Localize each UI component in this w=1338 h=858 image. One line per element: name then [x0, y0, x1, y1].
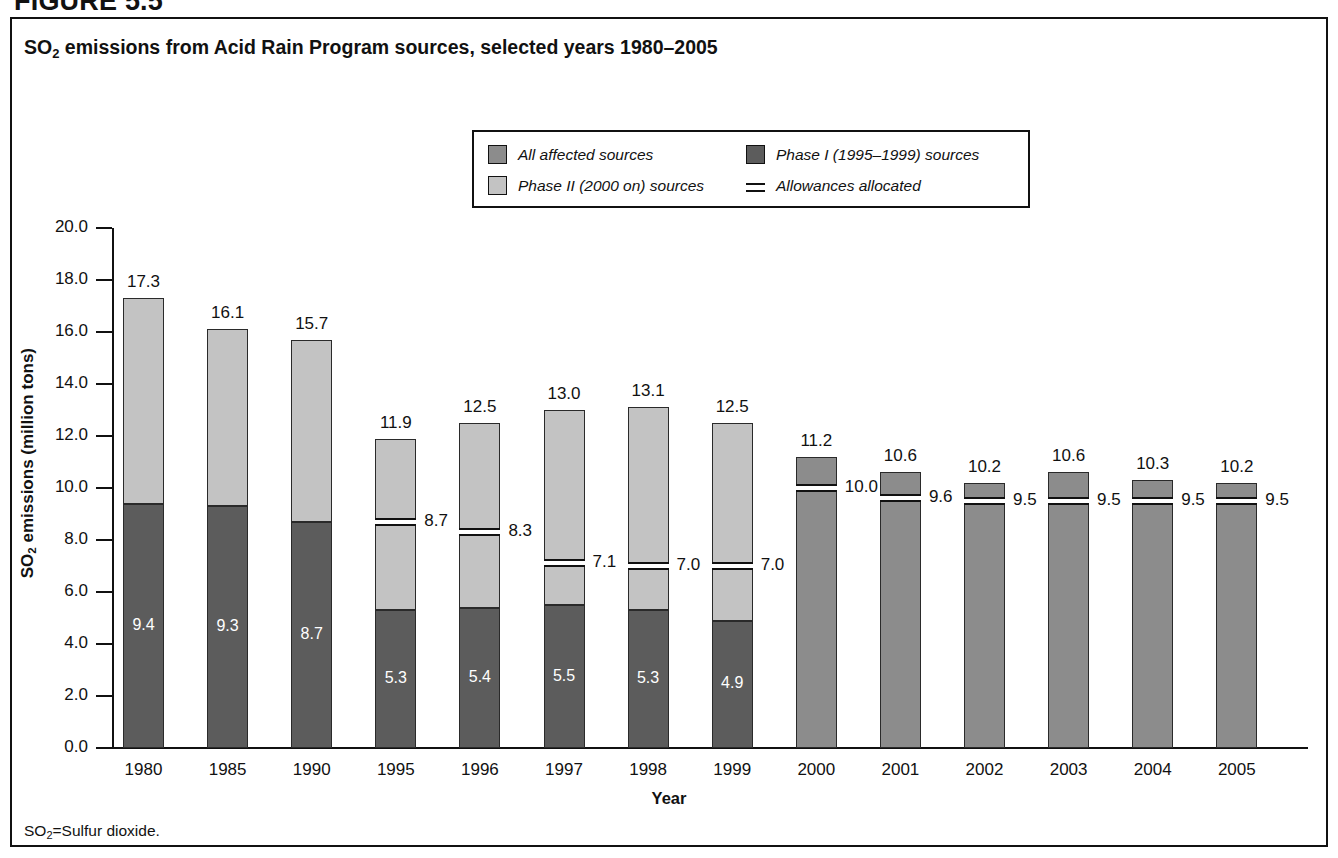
- x-axis-tick-label: 1995: [351, 760, 441, 780]
- bar-total-label: 16.1: [188, 303, 268, 323]
- x-axis-tick-label: 2003: [1024, 760, 1114, 780]
- allowance-value-label: 9.5: [1265, 490, 1289, 510]
- bar-phase-i-label: 9.3: [188, 617, 268, 635]
- bar-segment-phase-ii: [459, 423, 500, 608]
- y-axis-tick: [96, 487, 112, 489]
- bar-total-label: 10.2: [945, 457, 1025, 477]
- allowance-value-label: 8.3: [508, 521, 532, 541]
- bar-total-label: 10.3: [1113, 454, 1193, 474]
- allowance-line: [880, 494, 921, 502]
- y-axis-tick-label: 12.0: [0, 425, 88, 445]
- allowance-line: [1132, 497, 1173, 505]
- bar-total-label: 11.9: [356, 413, 436, 433]
- bar-segment-all-affected: [964, 483, 1005, 748]
- allowance-value-label: 7.0: [761, 555, 785, 575]
- y-axis-tick-label: 10.0: [0, 477, 88, 497]
- bar-segment-all-affected: [1132, 480, 1173, 748]
- bar-segment-all-affected: [880, 472, 921, 748]
- y-axis-tick: [96, 539, 112, 541]
- bar-segment-phase-ii: [207, 329, 248, 506]
- legend-label: Phase I (1995–1999) sources: [776, 146, 979, 164]
- bar-total-label: 12.5: [692, 397, 772, 417]
- bar-phase-i-label: 9.4: [104, 616, 184, 634]
- bar-total-label: 11.2: [776, 431, 856, 451]
- bar-segment-phase-ii: [123, 298, 164, 503]
- allowance-line: [459, 528, 500, 536]
- allowance-line: [628, 562, 669, 570]
- x-axis-tick-label: 2000: [771, 760, 861, 780]
- bar-phase-i-label: 5.3: [608, 669, 688, 687]
- x-axis-tick-label: 2002: [940, 760, 1030, 780]
- allowance-line: [375, 518, 416, 526]
- bar-total-label: 10.6: [860, 446, 940, 466]
- bar-segment-phase-ii: [712, 423, 753, 621]
- y-axis-tick: [96, 331, 112, 333]
- allowance-value-label: 9.5: [1181, 490, 1205, 510]
- bar-segment-phase-ii: [628, 407, 669, 610]
- x-axis-tick-label: 1980: [99, 760, 189, 780]
- bar-total-label: 13.0: [524, 384, 604, 404]
- allowance-value-label: 9.5: [1097, 490, 1121, 510]
- bar-phase-i-label: 4.9: [692, 674, 772, 692]
- x-axis-tick-label: 1999: [687, 760, 777, 780]
- figure-number: FIGURE 5.5: [14, 0, 163, 17]
- legend-swatch-icon: [746, 145, 765, 164]
- y-axis-tick: [96, 695, 112, 697]
- y-axis-tick: [96, 383, 112, 385]
- legend-label: All affected sources: [518, 146, 653, 164]
- allowance-value-label: 9.6: [929, 487, 953, 507]
- x-axis-tick-label: 1990: [267, 760, 357, 780]
- y-axis-tick: [96, 227, 112, 229]
- y-axis-tick-label: 4.0: [0, 633, 88, 653]
- legend-swatch-icon: [488, 176, 507, 195]
- y-axis-tick-label: 20.0: [0, 217, 88, 237]
- chart-title-pre: SO: [24, 36, 52, 58]
- allowance-value-label: 9.5: [1013, 490, 1037, 510]
- footnote-post: =Sulfur dioxide.: [53, 822, 160, 839]
- allowance-line: [1216, 497, 1257, 505]
- legend-item-all-affected-sources: All affected sources: [488, 145, 746, 164]
- legend-swatch-icon: [488, 145, 507, 164]
- allowance-value-label: 10.0: [845, 477, 878, 497]
- x-axis-title: Year: [0, 789, 1338, 808]
- bar-phase-i-label: 5.4: [440, 668, 520, 686]
- x-axis-tick-label: 2004: [1108, 760, 1198, 780]
- x-axis-tick-label: 1997: [519, 760, 609, 780]
- footnote: SO2=Sulfur dioxide.: [24, 822, 160, 841]
- x-axis-tick-label: 1998: [603, 760, 693, 780]
- chart-legend: All affected sources Phase I (1995–1999)…: [472, 130, 1030, 208]
- bar-total-label: 10.2: [1197, 457, 1277, 477]
- y-axis-tick-label: 18.0: [0, 269, 88, 289]
- bar-total-label: 13.1: [608, 381, 688, 401]
- allowance-line: [796, 484, 837, 492]
- allowance-line: [544, 559, 585, 567]
- bar-total-label: 12.5: [440, 397, 520, 417]
- legend-row: Phase II (2000 on) sources Allowances al…: [488, 170, 1014, 201]
- bar-segment-phase-ii: [291, 340, 332, 522]
- allowance-line: [1048, 497, 1089, 505]
- chart-title: SO2 emissions from Acid Rain Program sou…: [24, 36, 718, 61]
- x-axis-tick-label: 2001: [855, 760, 945, 780]
- bar-phase-i-label: 8.7: [272, 625, 352, 643]
- bar-segment-all-affected: [796, 457, 837, 748]
- y-axis-tick-label: 2.0: [0, 685, 88, 705]
- legend-label: Phase II (2000 on) sources: [518, 177, 704, 195]
- legend-item-phase-ii-sources: Phase II (2000 on) sources: [488, 176, 746, 195]
- allowance-value-label: 7.1: [593, 552, 617, 572]
- y-axis-tick: [96, 643, 112, 645]
- allowance-value-label: 8.7: [424, 511, 448, 531]
- legend-label: Allowances allocated: [776, 177, 921, 195]
- y-axis-tick: [96, 591, 112, 593]
- y-axis-tick-label: 14.0: [0, 373, 88, 393]
- y-axis-tick: [96, 435, 112, 437]
- x-axis-tick-label: 2005: [1192, 760, 1282, 780]
- bar-segment-all-affected: [1216, 483, 1257, 748]
- chart-title-post: emissions from Acid Rain Program sources…: [59, 36, 717, 58]
- y-axis-tick-label: 8.0: [0, 529, 88, 549]
- x-axis-tick-label: 1996: [435, 760, 525, 780]
- legend-item-allowances-allocated: Allowances allocated: [746, 177, 921, 195]
- y-axis-tick-label: 16.0: [0, 321, 88, 341]
- y-axis-tick-label: 0.0: [0, 737, 88, 757]
- allowance-value-label: 7.0: [677, 555, 701, 575]
- y-axis-tick: [96, 747, 112, 749]
